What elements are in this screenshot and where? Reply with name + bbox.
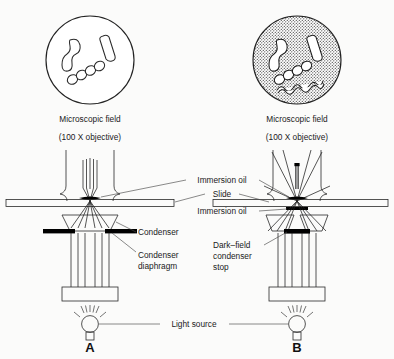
- lamp-housing-a: [62, 287, 118, 301]
- label-light-source: Light source: [171, 319, 217, 329]
- field-caption-a-line2: (100 X objective): [59, 132, 121, 142]
- condenser-cone-b: [268, 201, 326, 231]
- light-bulb-b: [281, 305, 313, 340]
- condenser-a: [62, 215, 118, 231]
- light-column-a: [71, 233, 109, 287]
- label-darkfield-stop-line2: condenser: [213, 251, 252, 261]
- label-condenser-diaphragm-line1: Condenser: [138, 250, 179, 260]
- lamp-housing-b: [269, 287, 325, 301]
- label-condenser: Condenser: [138, 227, 179, 237]
- leader-immersion-oil-top-right: [259, 180, 289, 197]
- field-caption-b-line2: (100 X objective): [266, 132, 328, 142]
- label-immersion-oil-top: Immersion oil: [197, 175, 246, 185]
- field-caption-a-line1: Microscopic field: [59, 114, 121, 124]
- objective-stop-mark-b: [294, 163, 299, 166]
- leader-condenser-diaphragm: [112, 233, 136, 252]
- condenser-cone-a: [71, 201, 109, 228]
- leader-slide-right: [239, 194, 269, 202]
- label-immersion-oil-bottom: Immersion oil: [197, 206, 246, 216]
- microscope-assembly-a: [6, 150, 174, 340]
- microscopic-field-circle-a: [46, 16, 134, 104]
- objective-rays-a: [83, 158, 97, 189]
- microscopic-field-circle-b: [253, 16, 341, 104]
- light-column-b: [278, 233, 316, 287]
- field-caption-b-line1: Microscopic field: [266, 114, 328, 124]
- condenser-diaphragm-right-a: [105, 229, 137, 233]
- condenser-diaphragm-left-a: [43, 229, 75, 233]
- label-darkfield-stop-line3: stop: [213, 262, 229, 272]
- label-condenser-diaphragm-line2: diaphragm: [138, 261, 177, 271]
- panel-label-b: B: [292, 340, 301, 355]
- leader-darkfield-stop: [264, 232, 287, 245]
- panel-label-a: A: [85, 340, 95, 355]
- label-darkfield-stop-line1: Dark–field: [213, 240, 251, 250]
- light-bulb-a: [74, 305, 106, 340]
- objective-axis-b: [296, 166, 299, 189]
- figure-canvas: Microscopic field (100 X objective) Micr…: [0, 0, 394, 359]
- label-slide: Slide: [213, 189, 232, 199]
- leader-immersion-oil-bottom: [259, 209, 287, 211]
- darkfield-condenser-stop-b: [284, 229, 310, 234]
- leader-slide-left: [175, 194, 205, 202]
